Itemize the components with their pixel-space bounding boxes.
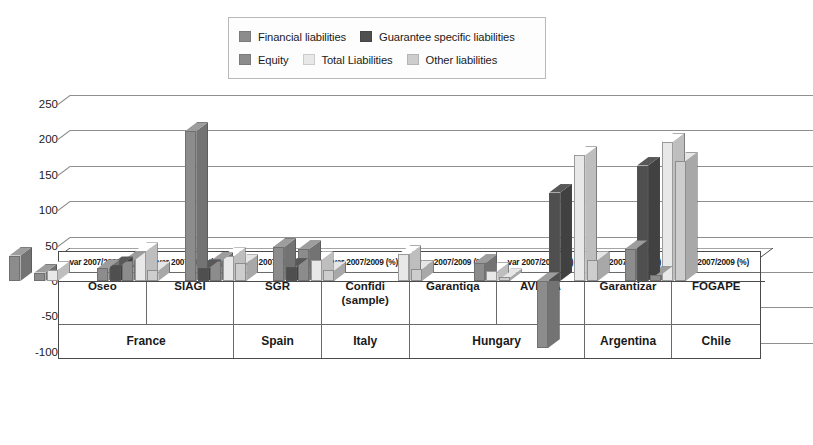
bar-total-liabilities-avhga (486, 271, 497, 281)
bar-other-liabilities-avhga (499, 277, 510, 281)
legend-item-label: Total Liabilities (322, 54, 393, 66)
bar-side-face (648, 157, 660, 281)
bar-financial-liabilities-confidi-sample- (273, 247, 284, 281)
bar-other-liabilities-confidi-sample- (323, 270, 334, 281)
legend-row: Financial liabilities Guarantee specific… (239, 25, 535, 48)
legend-item-label: Guarantee specific liabilities (379, 31, 515, 43)
bar-financial-liabilities-garantizar (537, 281, 548, 348)
bar-guarantee-specific-liabilities-confidi-sample- (286, 267, 297, 281)
axis-country-label: Argentina (585, 325, 673, 358)
legend-financial-liabilities: Financial liabilities (239, 31, 346, 43)
bar-total-liabilities-confidi-sample- (311, 260, 322, 281)
axis-country-label: Italy (322, 325, 410, 358)
bar-equity-oseo (34, 273, 45, 281)
baseline (58, 281, 765, 282)
legend-swatch-icon (360, 31, 372, 42)
bar-guarantee-specific-liabilities-garantizar (549, 193, 560, 282)
legend-total-liabilities: Total Liabilities (303, 54, 393, 66)
bar-equity-avhga (474, 263, 485, 281)
bar-other-liabilities-sgr (235, 263, 246, 281)
bar-equity-fogape (650, 275, 661, 281)
bar-side-face (548, 272, 560, 348)
bar-other-liabilities-garantiqa (411, 269, 422, 281)
legend-item-label: Financial liabilities (258, 31, 346, 43)
bar-side-face (560, 184, 572, 282)
bar-financial-liabilities-siagi (97, 268, 108, 281)
bar-total-liabilities-garantizar (574, 155, 585, 281)
bar-other-liabilities-fogape (675, 161, 686, 281)
legend-equity: Equity (239, 54, 289, 66)
legend-guarantee-specific-liabilities: Guarantee specific liabilities (360, 31, 515, 43)
bar-total-liabilities-oseo (47, 270, 58, 281)
bar-side-face (196, 122, 208, 281)
axis-institution-line: (sample) (322, 293, 409, 307)
axis-row-country: FranceSpainItalyHungaryArgentinaChile (59, 325, 760, 358)
bar-total-liabilities-garantiqa (398, 254, 409, 281)
bar-guarantee-specific-liabilities-siagi (110, 265, 121, 281)
legend-swatch-icon (303, 54, 315, 65)
legend-swatch-icon (239, 54, 251, 65)
bar-other-liabilities-siagi (147, 270, 158, 281)
bar-other-liabilities-garantizar (587, 260, 598, 281)
bar-financial-liabilities-sgr (185, 131, 196, 281)
bar-equity-siagi (122, 261, 133, 281)
bar-total-liabilities-fogape (662, 142, 673, 281)
axis-country-label: France (59, 325, 234, 358)
bar-guarantee-specific-liabilities-fogape (637, 166, 648, 281)
bar-equity-confidi-sample- (298, 249, 309, 281)
legend-row: Equity Total Liabilities Other liabiliti… (239, 48, 535, 71)
axis-country-label: Spain (234, 325, 322, 358)
chart-plot-area: 250200150100500-50-100 (0, 86, 813, 445)
bar-total-liabilities-sgr (223, 256, 234, 281)
legend-item-label: Equity (258, 54, 289, 66)
bar-side-face (686, 152, 698, 281)
bar-financial-liabilities-oseo (9, 256, 20, 281)
legend-item-label: Other liabilities (426, 54, 498, 66)
axis-country-label: Chile (672, 325, 760, 358)
bar-financial-liabilities-fogape (625, 249, 636, 281)
legend-swatch-icon (239, 31, 251, 42)
legend-swatch-icon (407, 54, 419, 65)
bar-guarantee-specific-liabilities-sgr (198, 268, 209, 281)
legend-other-liabilities: Other liabilities (407, 54, 498, 66)
chart-legend: Financial liabilities Guarantee specific… (228, 17, 546, 79)
